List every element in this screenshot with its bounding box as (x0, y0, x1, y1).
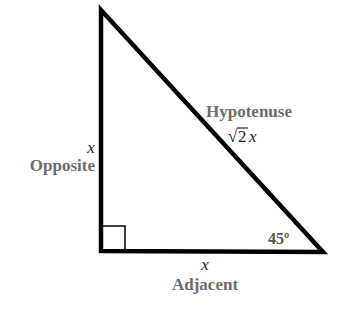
right-triangle-diagram: x Opposite Hypotenuse √ 2 x 45º x Adjace… (0, 0, 344, 311)
radicand: 2 (238, 127, 247, 146)
opposite-length: x (86, 138, 95, 157)
adjacent-length: x (200, 255, 209, 274)
hypotenuse-label: Hypotenuse (206, 102, 292, 121)
right-angle-marker (102, 226, 125, 250)
hypotenuse-var: x (248, 127, 257, 146)
adjacent-label: Adjacent (172, 275, 238, 294)
radical-sign: √ (228, 127, 238, 146)
angle-label: 45º (268, 230, 289, 247)
opposite-label: Opposite (30, 156, 96, 175)
hypotenuse-length: √ 2 x (228, 127, 257, 146)
triangle-outline (101, 10, 323, 252)
